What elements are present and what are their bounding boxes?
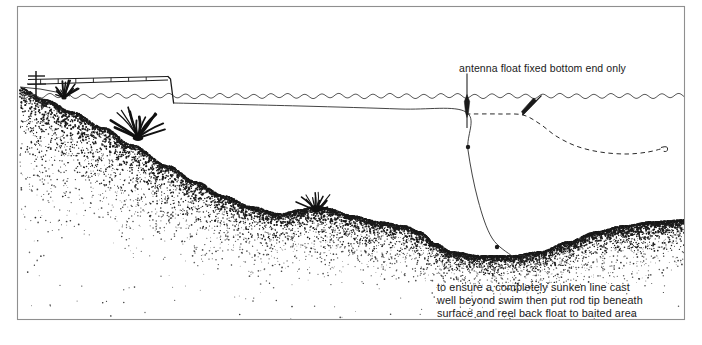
annotation-sunken-line-method: to ensure a completely sunken line cast … <box>437 281 643 321</box>
fishing-technique-diagram: antenna float fixed bottom end only to e… <box>0 0 702 345</box>
annotation-antenna-float: antenna float fixed bottom end only <box>459 62 626 75</box>
shot-lower <box>495 245 499 249</box>
shot-upper <box>466 145 470 149</box>
